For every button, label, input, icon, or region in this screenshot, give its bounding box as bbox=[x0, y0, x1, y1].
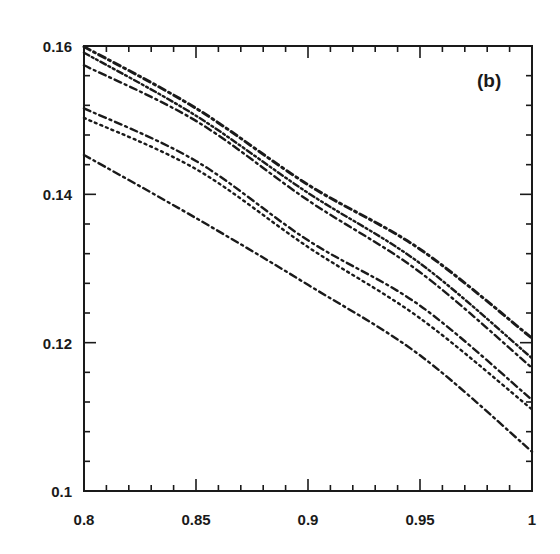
series-line-3 bbox=[84, 65, 532, 368]
panel-label: (b) bbox=[477, 70, 501, 91]
y-tick-label: 0.1 bbox=[51, 483, 72, 500]
series-layer bbox=[84, 47, 532, 452]
series-line-5 bbox=[84, 118, 532, 410]
y-axis: 0.10.120.140.16 bbox=[43, 38, 532, 500]
y-tick-label: 0.16 bbox=[43, 38, 72, 55]
plot-frame bbox=[84, 46, 532, 491]
y-tick-label: 0.12 bbox=[43, 335, 72, 352]
series-line-4 bbox=[84, 108, 532, 400]
x-tick-label: 0.9 bbox=[298, 511, 319, 528]
x-tick-label: 0.95 bbox=[405, 511, 434, 528]
y-tick-label: 0.14 bbox=[43, 186, 73, 203]
x-tick-label: 0.8 bbox=[74, 511, 95, 528]
line-chart: 0.80.850.90.951 0.10.120.140.16 (b) bbox=[0, 0, 560, 554]
x-tick-label: 0.85 bbox=[181, 511, 210, 528]
series-line-2 bbox=[84, 53, 532, 359]
x-tick-label: 1 bbox=[528, 511, 536, 528]
x-axis: 0.80.850.90.951 bbox=[74, 46, 537, 528]
